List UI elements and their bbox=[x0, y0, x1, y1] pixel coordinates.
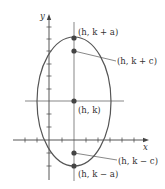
focus-upper-point bbox=[71, 48, 76, 53]
focus-lower-label: (h, k − c) bbox=[118, 156, 158, 166]
focus-lower-point bbox=[71, 150, 76, 155]
x-axis-label: x bbox=[143, 142, 148, 152]
vertex-top-point bbox=[71, 35, 76, 40]
leader-line-upper-focus bbox=[74, 51, 116, 61]
vertex-bottom-point bbox=[71, 163, 76, 168]
center-label: (h, k) bbox=[78, 105, 101, 115]
ellipse-diagram: x y (h, k + a) (h, k + c) (h, k) (h bbox=[0, 0, 165, 189]
center-point bbox=[71, 98, 76, 103]
x-axis: x bbox=[13, 138, 149, 153]
y-axis: y bbox=[39, 11, 52, 180]
vertex-top-label: (h, k + a) bbox=[78, 27, 118, 37]
vertex-bottom-label: (h, k − a) bbox=[78, 169, 118, 179]
y-axis-arrow-icon bbox=[47, 14, 51, 20]
focus-upper-label: (h, k + c) bbox=[117, 56, 157, 66]
y-axis-label: y bbox=[39, 11, 45, 21]
